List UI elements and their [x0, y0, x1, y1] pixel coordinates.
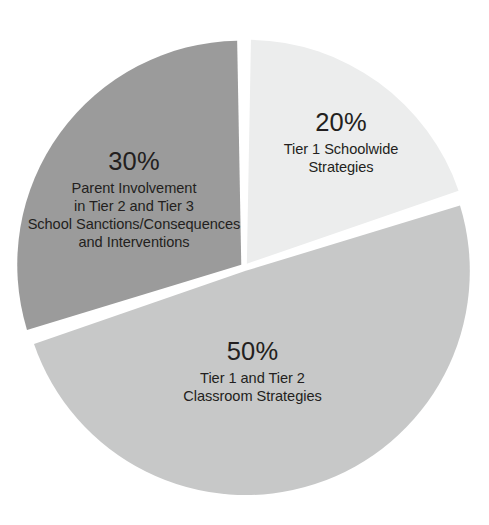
pie-chart: 20% Tier 1 Schoolwide Strategies 30% Par…: [0, 0, 489, 525]
pie-chart-canvas: [0, 0, 489, 525]
